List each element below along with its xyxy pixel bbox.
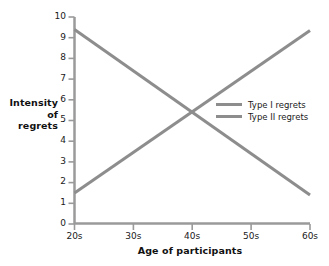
x-tick-label-20s: 20s [60,231,90,241]
x-tick-label-60s: 60s [295,231,325,241]
y-tick-label-8: 8 [44,52,66,62]
legend-label-type-ii: Type II regrets [248,112,308,122]
legend-label-type-i: Type I regrets [248,100,306,110]
legend-item-type-ii: Type II regrets [216,111,308,122]
x-axis-ticks [75,224,311,230]
y-tick-label-4: 4 [44,135,66,145]
legend-item-type-i: Type I regrets [216,99,308,110]
y-tick-label-2: 2 [44,176,66,186]
y-tick-label-3: 3 [44,156,66,166]
x-tick-label-30s: 30s [118,231,148,241]
y-tick-label-7: 7 [44,73,66,83]
x-tick-label-40s: 40s [177,231,207,241]
y-tick-label-1: 1 [44,197,66,207]
legend-swatch-icon-type-ii [216,115,242,118]
chart-container: 10 9 8 7 6 5 4 3 2 1 0 20s 30s 40s 50s 6… [0,0,329,266]
y-axis-title: Intensity of regrets [2,97,58,132]
y-tick-label-9: 9 [44,32,66,42]
x-axis-title: Age of participants [60,245,320,257]
x-tick-label-50s: 50s [236,231,266,241]
chart-legend: Type I regrets Type II regrets [216,99,308,123]
y-tick-label-0: 0 [44,218,66,228]
y-tick-label-10: 10 [44,11,66,21]
legend-swatch-icon-type-i [216,103,242,106]
